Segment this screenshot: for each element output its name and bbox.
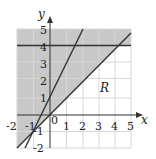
svg-text:2: 2 <box>40 75 47 88</box>
svg-text:4: 4 <box>111 120 118 133</box>
svg-text:1: 1 <box>40 92 47 105</box>
svg-text:-1: -1 <box>33 125 44 138</box>
x-axis-label: x <box>141 113 148 127</box>
svg-text:-2: -2 <box>6 120 17 133</box>
svg-text:1: 1 <box>63 120 70 133</box>
svg-text:3: 3 <box>40 58 47 71</box>
svg-text:2: 2 <box>79 120 86 133</box>
svg-text:5: 5 <box>40 24 47 37</box>
svg-text:5: 5 <box>127 120 134 133</box>
shaded-band <box>17 29 131 46</box>
y-axis-label: y <box>37 7 45 21</box>
inequality-graph: x y R -2 -1 0 1 2 3 4 5 -2 -1 1 2 3 4 5 <box>0 0 156 159</box>
svg-text:3: 3 <box>95 120 102 133</box>
y-axis-arrow-icon <box>47 16 53 23</box>
region-label: R <box>99 81 109 95</box>
svg-text:-2: -2 <box>33 142 44 155</box>
svg-text:0: 0 <box>51 114 58 127</box>
svg-text:4: 4 <box>40 41 47 54</box>
